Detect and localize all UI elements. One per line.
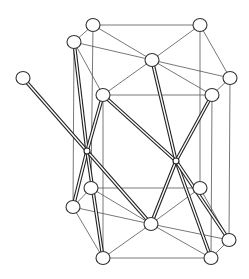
cell-edge <box>74 42 152 60</box>
atom-B5 <box>222 234 236 247</box>
atom-B3 <box>66 201 80 214</box>
cell-edge <box>73 42 74 207</box>
bond-rod <box>74 42 87 151</box>
cell-edge <box>211 95 212 258</box>
cell-edge <box>151 224 229 240</box>
cell-edge <box>103 60 152 95</box>
atom-A1 <box>86 19 100 32</box>
bond-rod <box>103 95 176 161</box>
cell-edge <box>152 60 212 95</box>
atom-B4 <box>144 218 158 231</box>
cell-edge <box>93 25 152 60</box>
atom-A2 <box>193 19 207 32</box>
cell-edge <box>229 78 230 240</box>
crystal-structure-diagram <box>0 0 249 279</box>
coordination-bonds <box>23 42 229 258</box>
atom-A3 <box>67 36 81 49</box>
bond-rod <box>23 78 87 151</box>
atom-A5 <box>223 72 237 85</box>
atom-B1 <box>84 182 98 195</box>
atom-B7 <box>204 252 218 265</box>
bond-rod <box>176 161 211 258</box>
cell-edge <box>103 224 151 258</box>
atom-A4 <box>145 54 159 67</box>
bond-rod <box>152 60 176 161</box>
atoms <box>16 19 237 265</box>
central-atom-C2 <box>173 158 179 164</box>
atom-B2 <box>193 182 207 195</box>
bond-rod <box>73 151 87 207</box>
cell-edge <box>200 25 230 78</box>
central-atom-C1 <box>84 148 90 154</box>
atom-A6 <box>96 89 110 102</box>
bond-rod <box>87 95 103 151</box>
bond-rod <box>176 161 229 240</box>
atom-A8 <box>16 72 30 85</box>
cell-edge <box>152 25 200 60</box>
atom-A7 <box>205 89 219 102</box>
cell-edge <box>91 188 151 224</box>
atom-B6 <box>96 252 110 265</box>
cell-edge <box>152 60 230 78</box>
bond-rod <box>176 95 212 161</box>
cell-edge <box>91 25 93 188</box>
